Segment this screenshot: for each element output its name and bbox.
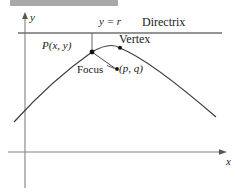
y-axis-arrowhead <box>22 12 28 19</box>
vertex-marker <box>118 46 122 50</box>
x-axis-label: x <box>226 156 231 167</box>
focus-point-label: (p, q) <box>119 63 143 74</box>
focus-label: Focus <box>77 64 103 75</box>
parabola-curve <box>14 46 216 122</box>
point-p-marker <box>90 50 95 55</box>
parabola-figure: y x y = r Directrix P(x, y) Vertex Focus… <box>0 0 237 193</box>
diagram-canvas <box>0 0 237 193</box>
y-axis-label: y <box>30 12 35 23</box>
directrix-equation-label: y = r <box>99 16 121 27</box>
x-axis-arrowhead <box>219 149 227 155</box>
point-p-label: P(x, y) <box>42 40 71 51</box>
directrix-label: Directrix <box>142 16 185 28</box>
vertex-label: Vertex <box>119 33 150 45</box>
